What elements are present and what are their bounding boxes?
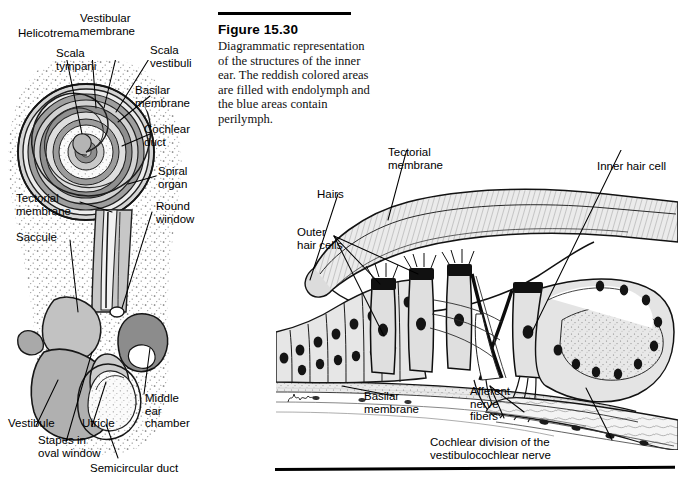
figure-bottom-rule — [275, 466, 675, 471]
label-spiral-organ: Spiral organ — [158, 165, 187, 190]
figure-number: Figure 15.30 — [218, 22, 378, 38]
label-basilar-membrane-r: Basilar membrane — [364, 390, 419, 415]
label-stapes-oval-window: Stapes in oval window — [38, 434, 101, 459]
label-tectorial-membrane: Tectorial membrane — [16, 192, 71, 217]
label-basilar-membrane: Basilar membrane — [135, 84, 190, 109]
caption-top-rule — [218, 12, 351, 15]
figure-15-30: Figure 15.30 Diagrammatic representation… — [0, 0, 678, 493]
outer-hair-cells-shapes — [366, 249, 474, 374]
supporting-cells-right — [536, 279, 674, 402]
label-cochlear-duct: Cochlear duct — [144, 123, 190, 148]
label-inner-hair-cell: Inner hair cell — [597, 160, 666, 173]
label-middle-ear-chamber: Middle ear chamber — [145, 392, 190, 430]
label-afferent-nerve-fibers: Afferent nerve fibers — [470, 385, 510, 423]
label-scala-tympani: Scala tympani — [56, 47, 96, 72]
label-semicircular-duct: Semicircular duct — [90, 462, 178, 475]
label-tectorial-membrane-r: Tectorial membrane — [388, 146, 443, 171]
label-outer-hair-cells: Outer hair cells — [297, 226, 342, 251]
middle-ear-chamber-shape — [118, 314, 168, 372]
label-utricle: Utricle — [82, 417, 115, 430]
label-hairs: Hairs — [317, 188, 344, 201]
label-vestibule: Vestibule — [8, 417, 55, 430]
label-round-window: Round window — [156, 200, 194, 225]
label-saccule: Saccule — [16, 231, 57, 244]
figure-caption-text: Diagrammatic representation of the struc… — [218, 39, 376, 127]
label-cochlear-division: Cochlear division of the vestibulocochle… — [430, 436, 551, 461]
label-scala-vestibuli: Scala vestibuli — [150, 44, 192, 69]
label-vestibular-membrane: Vestibular membrane — [80, 12, 135, 37]
label-helicotrema: Helicotrema — [18, 27, 79, 40]
figure-caption-block: Figure 15.30 Diagrammatic representation… — [218, 12, 378, 127]
supporting-cells-left — [276, 280, 426, 383]
